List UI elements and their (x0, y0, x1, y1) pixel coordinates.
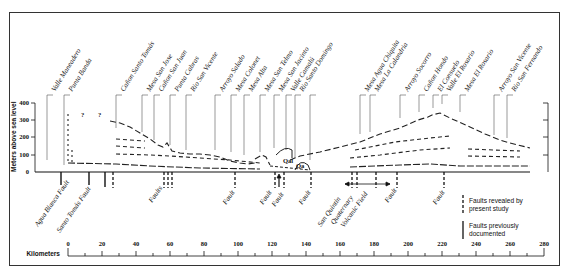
y-axis-label: Meters above sea level (10, 101, 17, 172)
svg-text:?: ? (98, 111, 101, 118)
fault-label: Fault (221, 188, 238, 207)
unit-qal: Qal (283, 157, 293, 164)
unit-qa: Qa (296, 162, 305, 169)
svg-text:240: 240 (471, 240, 481, 247)
volcanic-field-range (277, 174, 390, 187)
svg-text:0: 0 (26, 168, 29, 175)
profile-svg: 400 300 200 100 0 Meters above sea level (0, 0, 571, 275)
geologic-profile-figure: 400 300 200 100 0 Meters above sea level (0, 0, 571, 275)
svg-text:60: 60 (167, 240, 174, 247)
svg-text:160: 160 (335, 240, 345, 247)
volcanic-field-label: San Quintin Quaternary Volcanic Field (316, 190, 370, 229)
svg-text:260: 260 (505, 240, 515, 247)
legend-dashed-label: Faults revealed by present study (469, 197, 525, 213)
svg-text:280: 280 (539, 240, 549, 247)
svg-text:120: 120 (267, 240, 277, 247)
svg-text:40: 40 (133, 240, 140, 247)
svg-text:180: 180 (369, 240, 379, 247)
place-labels: Valle Maneadero Punta Banda Cañon Santo … (50, 38, 545, 94)
fault-label: Faults (147, 184, 165, 205)
svg-text:0: 0 (66, 240, 69, 247)
fault-labels: Agua Blanca Fault Santo Tomás Fault Faul… (33, 178, 448, 234)
legend-solid-label: Faults previously documented (469, 222, 520, 237)
svg-text:200: 200 (19, 133, 29, 140)
svg-text:?: ? (81, 111, 84, 118)
legend: Faults revealed by present study Faults … (463, 195, 525, 239)
km-scale (68, 248, 544, 256)
x-axis-label: Kilometers (26, 250, 60, 257)
fault-label: Fault (383, 186, 400, 205)
svg-text:100: 100 (233, 240, 243, 247)
svg-text:200: 200 (403, 240, 413, 247)
question-marks: ? ? (81, 111, 101, 118)
x-axis-ticks: 0 20 40 60 80 100 120 140 160 180 200 22… (66, 240, 549, 247)
svg-text:300: 300 (19, 116, 29, 123)
fault-label: Fault (431, 188, 448, 207)
svg-text:20: 20 (99, 240, 106, 247)
svg-text:140: 140 (301, 240, 311, 247)
svg-text:100: 100 (19, 151, 29, 158)
fault-label: Fault (297, 188, 314, 207)
svg-text:400: 400 (19, 99, 29, 106)
svg-text:220: 220 (437, 240, 447, 247)
y-axis-ticks: 400 300 200 100 0 (19, 99, 29, 175)
svg-text:80: 80 (201, 240, 208, 247)
